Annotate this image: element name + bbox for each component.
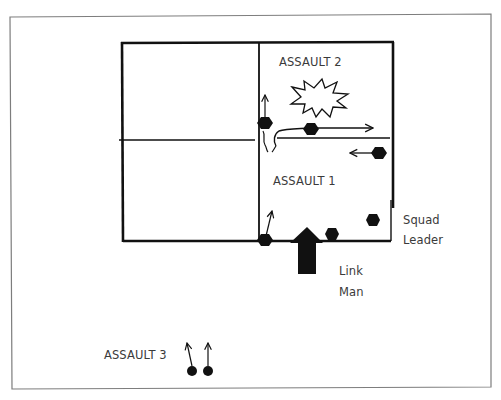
soldier-hex-icon: [303, 123, 319, 135]
explosion-icon: [291, 79, 348, 117]
tactical-room-clearing-diagram: [0, 0, 501, 400]
soldier-hex-icon: [366, 214, 380, 226]
label-assault-1: ASSAULT 1: [273, 176, 336, 188]
doorway-wavy-lines: [263, 128, 310, 152]
soldier-dot-icon: [203, 366, 213, 376]
arrow-up-left-icon: [187, 343, 192, 366]
soldier-markers: [187, 117, 387, 376]
building-outline: [121, 42, 394, 242]
label-squad-leader-line2: Leader: [403, 235, 443, 247]
label-link-man-line2: Man: [339, 287, 364, 299]
label-assault-2: ASSAULT 2: [279, 57, 342, 69]
soldier-hex-icon: [325, 228, 339, 240]
label-link-man-line1: Link: [339, 266, 364, 278]
label-link-man: Link Man: [339, 266, 364, 298]
soldier-hex-icon: [371, 147, 387, 159]
label-squad-leader-line1: Squad: [403, 215, 443, 227]
interior-walls: [119, 43, 390, 241]
entry-arrow-icon: [290, 227, 323, 274]
arrow-up-right-icon: [266, 211, 272, 236]
soldier-dot-icon: [187, 366, 197, 376]
label-assault-3: ASSAULT 3: [104, 350, 167, 362]
movement-arrows: [187, 95, 374, 366]
outer-frame: [10, 14, 491, 389]
label-squad-leader: Squad Leader: [403, 215, 443, 246]
